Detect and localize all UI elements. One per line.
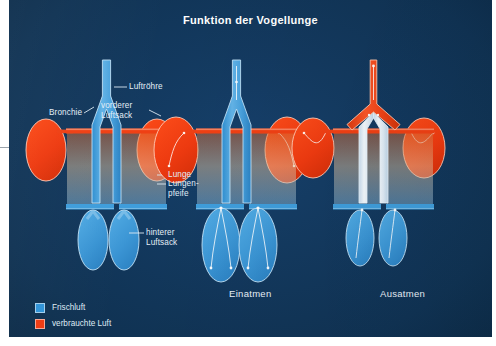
page-edge-right xyxy=(492,0,496,346)
legend: Frischluft verbrauchte Luft xyxy=(35,301,111,333)
page-edge-left xyxy=(0,0,9,346)
rear-air-sac-right xyxy=(379,210,407,266)
lung-right xyxy=(386,129,434,210)
rear-air-sac-right xyxy=(239,208,277,282)
panel-exhale xyxy=(292,60,445,266)
legend-label-fresh-air: Frischluft xyxy=(52,303,85,312)
page-edge-bottom xyxy=(0,337,496,346)
caption-inhale: Einatmen xyxy=(229,288,272,299)
legend-label-used-air: verbrauchte Luft xyxy=(52,319,111,328)
label-rear-air-sac: hinterer Luftsack xyxy=(146,228,177,248)
lung-left xyxy=(196,129,244,210)
diagram-poster: Funktion der Vogellunge xyxy=(9,0,492,337)
rear-air-sac-left xyxy=(78,210,108,270)
rear-sac-connector-right xyxy=(119,204,167,208)
front-air-sac-left xyxy=(26,119,66,181)
lung-left xyxy=(66,129,114,210)
front-air-sac-left xyxy=(292,118,334,178)
lung-right xyxy=(249,129,297,210)
bird-lung-diagram xyxy=(9,0,492,337)
used-air-swatch xyxy=(35,319,45,329)
caption-exhale: Ausatmen xyxy=(380,288,425,299)
rear-sac-connector-right xyxy=(249,204,297,208)
legend-item-fresh-air: Frischluft xyxy=(35,301,111,314)
screenshot-root: Funktion der Vogellunge xyxy=(0,0,496,346)
rear-sac-connector-left xyxy=(66,204,114,208)
rear-air-sac-left xyxy=(202,208,240,282)
rear-air-sac-left xyxy=(346,210,374,266)
rear-sac-connector-right xyxy=(386,204,434,208)
fresh-air-swatch xyxy=(35,303,45,313)
rear-sac-connector-left xyxy=(333,204,381,208)
label-front-air-sac: vorderer Luftsack xyxy=(101,101,132,121)
rear-air-sac-right xyxy=(109,210,139,270)
label-bronchus: Bronchie xyxy=(49,108,82,118)
lung-left xyxy=(333,129,381,210)
legend-item-used-air: verbrauchte Luft xyxy=(35,317,111,330)
trachea-group xyxy=(347,60,400,130)
label-lung-pipe: Lungen- pfeife xyxy=(168,179,199,199)
label-trachea: Luftröhre xyxy=(129,82,163,92)
